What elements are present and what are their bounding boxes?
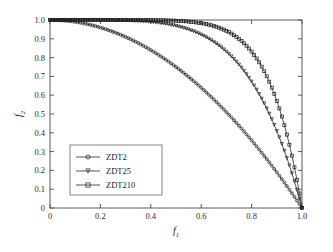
line-chart: 00.20.40.60.81.000.10.20.30.40.50.60.70.… (0, 0, 333, 252)
x-tick-label: 0.6 (196, 211, 207, 221)
y-tick-label: 0.8 (34, 53, 45, 63)
legend[interactable]: ZDT2ZDT25ZDT210 (70, 145, 162, 195)
x-tick-label: 0.8 (246, 211, 257, 221)
y-tick-label: 0.9 (34, 34, 45, 44)
legend-label: ZDT2 (106, 152, 127, 162)
legend-label: ZDT210 (106, 180, 135, 190)
y-tick-label: 0 (41, 203, 45, 213)
y-tick-label: 1.0 (34, 15, 45, 25)
x-axis-title-subscript: 1 (176, 231, 179, 238)
y-tick-label: 0.2 (34, 165, 45, 175)
x-tick-label: 0.2 (95, 211, 106, 221)
x-tick-label: 1.0 (297, 211, 308, 221)
y-tick-label: 0.4 (34, 128, 45, 138)
y-tick-label: 0.1 (34, 184, 45, 194)
y-tick-label: 0.7 (34, 71, 45, 81)
y-tick-label: 0.3 (34, 147, 45, 157)
x-tick-label: 0.4 (145, 211, 156, 221)
figure-container: 00.20.40.60.81.000.10.20.30.40.50.60.70.… (0, 0, 333, 252)
y-tick-label: 0.5 (34, 109, 45, 119)
x-tick-label: 0 (48, 211, 52, 221)
legend-label: ZDT25 (106, 166, 131, 176)
y-tick-label: 0.6 (34, 90, 45, 100)
